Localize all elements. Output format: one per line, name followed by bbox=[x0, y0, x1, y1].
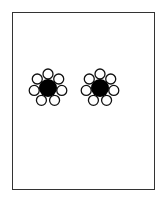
satellite-circle bbox=[43, 69, 53, 79]
satellite-circle bbox=[81, 85, 91, 95]
satellite-circle bbox=[102, 95, 112, 105]
core-circle bbox=[39, 79, 57, 97]
core-circle bbox=[91, 79, 109, 97]
satellite-circle bbox=[84, 74, 94, 84]
satellite-circle bbox=[106, 74, 116, 84]
right-cluster bbox=[81, 69, 119, 105]
satellite-circle bbox=[88, 95, 98, 105]
satellite-circle bbox=[32, 74, 42, 84]
satellite-circle bbox=[54, 74, 64, 84]
left-cluster bbox=[29, 69, 67, 105]
cluster-diagram bbox=[0, 0, 167, 201]
satellite-circle bbox=[109, 85, 119, 95]
satellite-circle bbox=[57, 85, 67, 95]
satellite-circle bbox=[36, 95, 46, 105]
satellite-circle bbox=[95, 69, 105, 79]
satellite-circle bbox=[50, 95, 60, 105]
satellite-circle bbox=[29, 85, 39, 95]
